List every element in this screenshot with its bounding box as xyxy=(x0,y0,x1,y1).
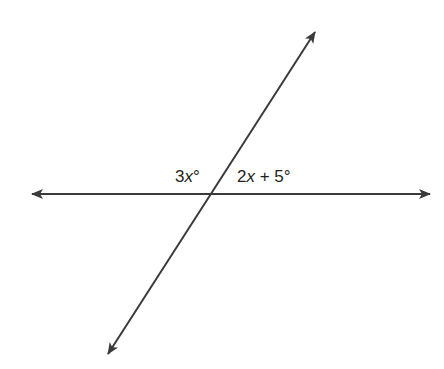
variable: x xyxy=(184,167,193,186)
degree-symbol: ° xyxy=(193,167,200,186)
constant-term: + 5 xyxy=(255,167,284,186)
diagram-canvas: 3x° 2x + 5° xyxy=(0,0,444,369)
variable: x xyxy=(246,167,255,186)
left-angle-label: 3x° xyxy=(175,167,200,187)
lines-svg xyxy=(0,0,444,369)
right-angle-label: 2x + 5° xyxy=(237,167,291,187)
degree-symbol: ° xyxy=(284,167,291,186)
